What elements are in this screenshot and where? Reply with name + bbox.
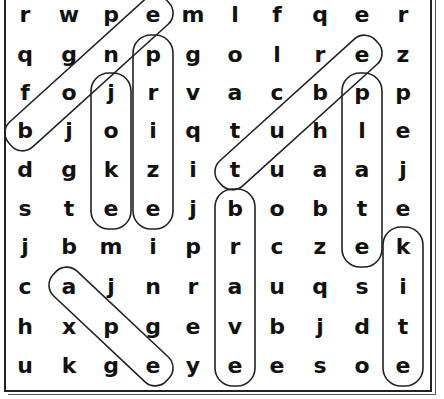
found-word-ring-prize <box>133 35 173 229</box>
found-word-ring-ape <box>43 261 179 392</box>
found-word-ring-joke <box>91 73 131 229</box>
found-word-ring-kite <box>383 227 423 386</box>
found-word-ring-plate <box>342 73 382 267</box>
found-word-ring-bone <box>0 0 179 157</box>
found-word-rings <box>0 0 444 399</box>
found-word-ring-tube <box>209 29 388 196</box>
found-word-ring-brave <box>215 189 255 386</box>
